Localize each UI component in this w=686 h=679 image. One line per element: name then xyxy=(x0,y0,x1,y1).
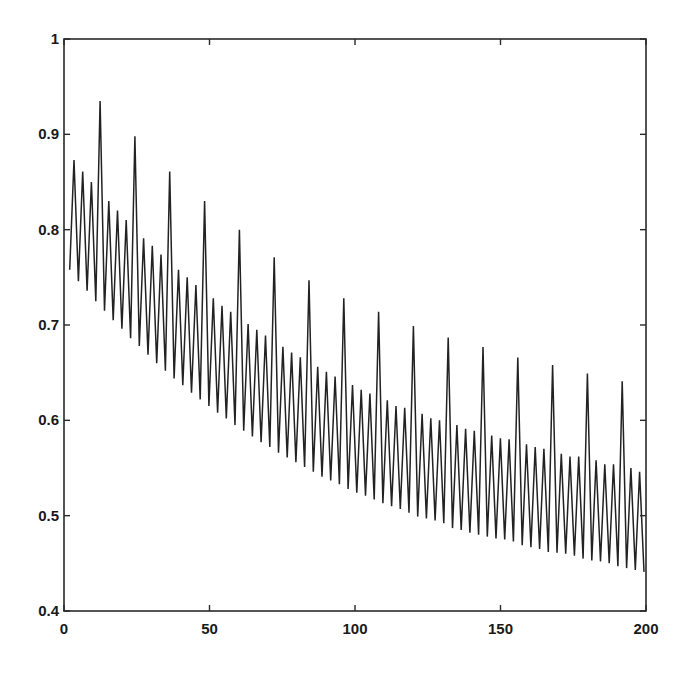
y-tick-label: 0.7 xyxy=(38,316,59,333)
x-tick-label: 50 xyxy=(201,620,218,637)
y-tick-label: 0.9 xyxy=(38,125,59,142)
y-tick-label: 1 xyxy=(51,30,59,47)
x-tick-label: 150 xyxy=(488,620,513,637)
y-axis-tick-labels: 0.40.50.60.70.80.91 xyxy=(38,30,60,619)
y-tick-label: 0.8 xyxy=(38,221,59,238)
x-tick-label: 200 xyxy=(633,620,658,637)
line-chart: 0.40.50.60.70.80.91 050100150200 xyxy=(0,0,686,679)
x-tick-label: 100 xyxy=(342,620,367,637)
x-tick-label: 0 xyxy=(60,620,68,637)
x-axis-tick-labels: 050100150200 xyxy=(60,620,659,637)
y-tick-label: 0.6 xyxy=(38,411,59,428)
plot-area: 0.40.50.60.70.80.91 050100150200 xyxy=(38,30,658,637)
y-tick-label: 0.5 xyxy=(38,507,59,524)
series-line xyxy=(70,101,644,572)
y-tick-label: 0.4 xyxy=(38,602,60,619)
